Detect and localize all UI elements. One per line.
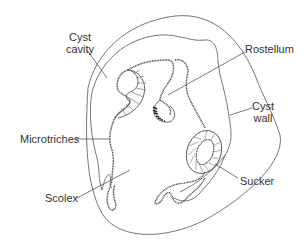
rostellum bbox=[153, 100, 175, 122]
leader-lines bbox=[75, 50, 252, 198]
leader-cyst-wall bbox=[230, 108, 252, 115]
cyst-wall-lower-lining bbox=[172, 155, 225, 201]
label-cyst-cavity-line2: cavity bbox=[66, 43, 94, 55]
scolex-body-outline bbox=[107, 70, 130, 210]
label-cyst-wall: Cyst wall bbox=[252, 100, 274, 124]
label-microtriches: Microtriches bbox=[20, 133, 79, 145]
label-cyst-cavity-line1: Cyst bbox=[66, 31, 94, 43]
label-rostellum: Rostellum bbox=[245, 43, 294, 55]
label-scolex: Scolex bbox=[45, 192, 78, 204]
scolex-neck-lower bbox=[155, 172, 205, 204]
cyst-cavity-inner-lining bbox=[90, 92, 102, 190]
label-cyst-cavity: Cyst cavity bbox=[66, 31, 94, 55]
label-cyst-wall-line1: Cyst bbox=[252, 100, 274, 112]
sucker bbox=[181, 126, 228, 179]
leader-rostellum bbox=[168, 52, 245, 95]
cyst-diagram: Cyst cavity Rostellum Cyst wall Microtri… bbox=[0, 0, 306, 246]
leader-sucker bbox=[215, 164, 238, 178]
leader-scolex bbox=[77, 170, 130, 198]
label-sucker: Sucker bbox=[240, 175, 274, 187]
label-cyst-wall-line2: wall bbox=[252, 112, 274, 124]
